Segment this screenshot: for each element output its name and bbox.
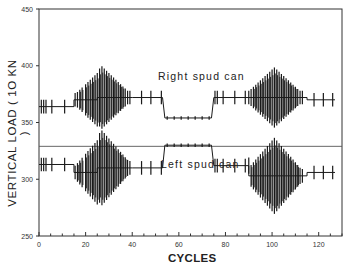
- svg-text:250: 250: [21, 233, 33, 240]
- svg-text:400: 400: [21, 62, 33, 69]
- svg-text:40: 40: [128, 241, 136, 248]
- svg-text:80: 80: [222, 241, 230, 248]
- series-left-spud-can: [39, 130, 335, 213]
- annotation-right-spud-can: Right spud can: [158, 70, 245, 82]
- x-axis-label: CYCLES: [168, 252, 216, 264]
- axes: 250300350400450020406080100120: [21, 6, 342, 249]
- svg-text:120: 120: [313, 241, 325, 248]
- svg-text:300: 300: [21, 176, 33, 183]
- svg-text:60: 60: [175, 241, 183, 248]
- svg-text:20: 20: [82, 241, 90, 248]
- chart-plot: 250300350400450020406080100120: [0, 0, 348, 274]
- svg-text:450: 450: [21, 6, 33, 13]
- svg-text:100: 100: [266, 241, 278, 248]
- svg-text:0: 0: [37, 241, 41, 248]
- svg-text:350: 350: [21, 119, 33, 126]
- y-axis-label: VERTICAL LOAD ( 1O KN ): [6, 58, 20, 208]
- annotation-left-spud-can: Left spud can: [161, 158, 240, 170]
